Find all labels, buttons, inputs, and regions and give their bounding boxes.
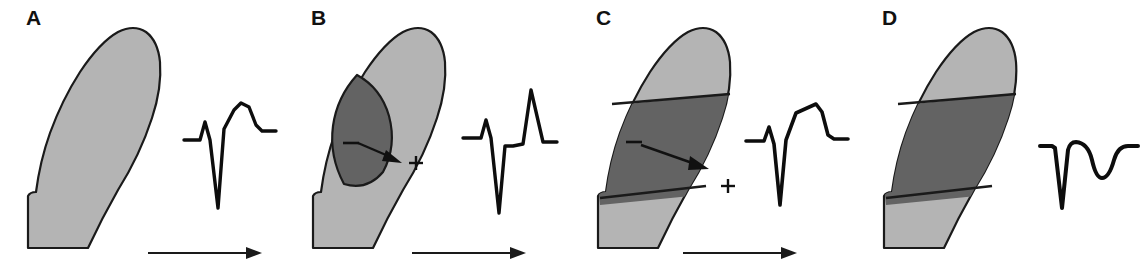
depolarization-direction-arrow-a (148, 247, 262, 259)
ecg-trace-d (1040, 142, 1138, 208)
panel-d: D (856, 0, 1141, 275)
panel-a: A (0, 0, 285, 275)
panel-a-graphic (0, 0, 285, 275)
panel-c: C (570, 0, 855, 275)
ecg-trace-b (463, 90, 557, 213)
myocardium-wall-normal (28, 28, 160, 248)
panel-b: B (285, 0, 570, 275)
plus-sign (721, 179, 735, 193)
depolarization-direction-arrow-b (412, 247, 526, 259)
figure-root: A B (0, 0, 1141, 275)
panel-c-graphic (570, 0, 855, 275)
panel-b-graphic (285, 0, 570, 275)
ecg-trace-c (746, 104, 848, 205)
ecg-trace-a (184, 103, 276, 208)
panel-d-graphic (856, 0, 1141, 275)
depolarization-direction-arrow-c (683, 247, 797, 259)
